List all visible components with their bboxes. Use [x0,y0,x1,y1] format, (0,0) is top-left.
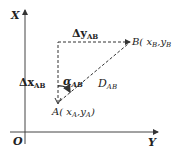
delta-y-label: ΔyAB [72,28,98,40]
delta-y-sub: AB [87,32,98,41]
point-b-sub-y: B [166,41,171,49]
distance-sub: AB [107,83,117,91]
point-a-label: A( xA,yA) [52,107,95,119]
point-a-coords: ( x [59,106,72,117]
distance-dashed-line [60,44,128,101]
distance-main: D [98,77,107,90]
delta-x-label: ΔxAB [19,77,45,89]
horizontal-axis-label: Y [148,137,156,148]
point-b-coords: ( x [139,36,152,47]
point-b-label: B( xB,yB [132,37,171,49]
alpha-sub: AB [71,80,82,89]
vertical-axis-label: X [11,10,20,21]
delta-x-main: Δx [19,76,34,89]
distance-label: DAB [98,78,117,91]
point-b-sep: ,y [157,36,166,47]
point-a-sep: ,y [77,106,86,117]
point-a-close: ) [91,106,95,117]
delta-x-sub: AB [34,81,45,90]
origin-label: O [13,136,23,147]
alpha-label: αAB [63,76,83,88]
delta-y-main: Δy [72,27,87,40]
coordinate-diagram: X O Y ΔyAB ΔxAB αAB DAB A( xA,yA) B( xB,… [0,0,176,158]
